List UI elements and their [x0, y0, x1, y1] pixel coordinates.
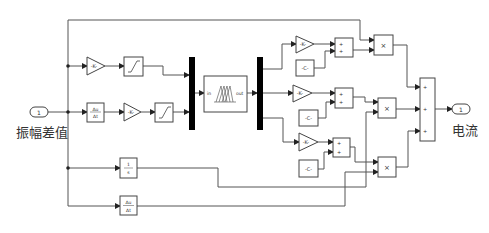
demux-block[interactable] [257, 57, 263, 130]
svg-text:-C-: -C- [305, 115, 312, 121]
block-diagram-canvas: 1 -K- Δu Δt -K- in out [0, 0, 489, 233]
gain-block-top[interactable]: -K- [87, 57, 105, 75]
svg-text:+: + [339, 48, 343, 54]
svg-text:+: + [337, 149, 341, 155]
integrator-block[interactable]: 1 s [120, 158, 137, 178]
svg-text:×: × [384, 105, 390, 113]
svg-text:+: + [339, 41, 343, 47]
svg-text:×: × [381, 42, 387, 50]
sum-block-1[interactable]: + + [335, 38, 353, 57]
saturation-block-mid[interactable] [155, 103, 173, 122]
constant-block-c3[interactable]: -C- [299, 160, 318, 177]
svg-text:1: 1 [127, 162, 130, 167]
svg-text:-K-: -K- [128, 109, 135, 115]
svg-text:+: + [339, 91, 343, 97]
svg-text:Δu: Δu [93, 107, 99, 112]
svg-text:-K-: -K- [300, 41, 307, 47]
sum-block-2[interactable]: + + [335, 88, 353, 108]
svg-text:in: in [207, 91, 211, 96]
saturation-block-top[interactable] [124, 57, 143, 76]
fuzzy-logic-controller-block[interactable]: in out [204, 76, 247, 112]
product-block-1[interactable]: × [374, 35, 393, 55]
inport-number: 1 [37, 109, 41, 116]
inport-label: 振幅差值 [16, 122, 68, 141]
gain-block-k3[interactable]: -K- [299, 133, 318, 151]
svg-text:+: + [423, 84, 427, 90]
svg-text:Δt: Δt [126, 208, 131, 213]
svg-text:+: + [423, 128, 427, 134]
product-block-2[interactable]: × [378, 98, 396, 118]
gain-block-k2[interactable]: -K- [293, 85, 312, 102]
outport-number: 1 [459, 106, 463, 113]
inport-block[interactable]: 1 [30, 107, 48, 117]
svg-text:-K-: -K- [303, 139, 310, 145]
gain-block-mid[interactable]: -K- [124, 103, 141, 121]
svg-text:+: + [339, 99, 343, 105]
svg-text:-K-: -K- [91, 63, 98, 69]
svg-text:out: out [236, 91, 244, 96]
constant-block-c2[interactable]: -C- [299, 110, 318, 126]
gain-block-k1[interactable]: -K- [296, 36, 314, 53]
sum-block-3[interactable]: + + [333, 138, 350, 157]
sum-block-output[interactable]: + + + [420, 78, 435, 141]
svg-text:-C-: -C- [301, 65, 308, 71]
svg-text:×: × [384, 164, 390, 172]
mux-block[interactable] [189, 57, 195, 130]
outport-block[interactable]: 1 [452, 104, 470, 114]
svg-text:+: + [423, 106, 427, 112]
svg-text:-C-: -C- [305, 166, 312, 172]
outport-label: 电流 [452, 120, 478, 139]
derivative-block-bottom[interactable]: Δu Δt [120, 196, 137, 215]
svg-text:Δu: Δu [126, 200, 132, 205]
product-block-3[interactable]: × [378, 157, 396, 177]
svg-text:Δt: Δt [93, 114, 98, 119]
derivative-block-mid[interactable]: Δu Δt [87, 103, 104, 122]
constant-block-c1[interactable]: -C- [296, 60, 314, 76]
svg-text:+: + [337, 140, 341, 146]
svg-text:-K-: -K- [297, 90, 304, 96]
